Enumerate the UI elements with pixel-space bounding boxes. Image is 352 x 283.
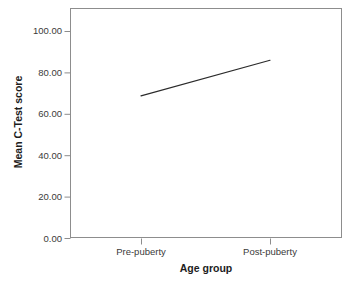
data-series-line — [141, 60, 270, 96]
y-tick-label-100: 100.00 — [4, 26, 62, 36]
y-tick-label-0: 0.00 — [4, 234, 62, 244]
chart-screenshot: 100.00 80.00 60.00 40.00 20.00 0.00 Mean… — [0, 0, 352, 283]
x-axis-title: Age group — [70, 262, 342, 274]
x-tick-label-pre-puberty: Pre-puberty — [86, 246, 196, 257]
y-axis-tick-labels: 100.00 80.00 60.00 40.00 20.00 0.00 — [0, 0, 62, 283]
x-tick-label-post-puberty: Post-puberty — [215, 246, 325, 257]
y-axis-title: Mean C-Test score — [12, 47, 24, 197]
y-tick-marks — [65, 32, 71, 239]
x-tick-marks — [142, 239, 271, 245]
